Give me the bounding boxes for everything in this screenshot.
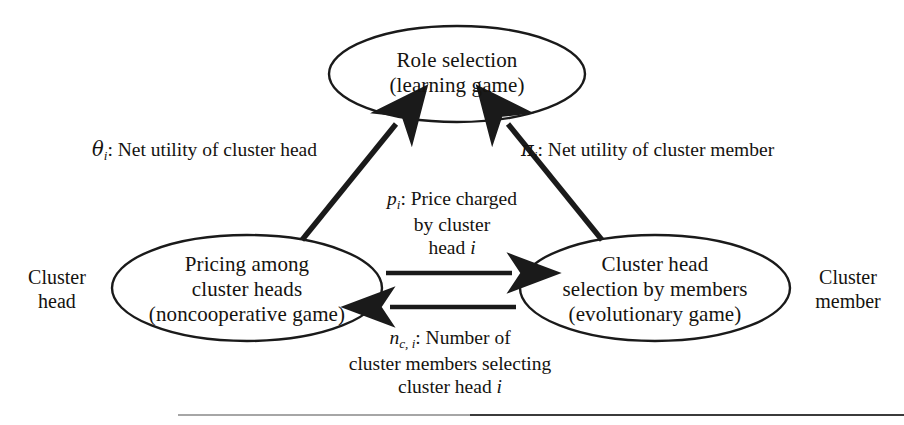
- edge-label-pi-net-utility-cluster-member: πi: Net utility of cluster member: [521, 138, 851, 164]
- members-line-1: nc, i: Number of: [295, 326, 605, 352]
- pi-text: : Net utility of cluster member: [538, 139, 775, 160]
- edge-label-price-charged: pi: Price charged by cluster head i: [337, 187, 567, 259]
- price-symbol: p: [387, 188, 397, 209]
- side-label-cluster-member: Cluster member: [796, 265, 900, 313]
- members-line-3-italic: i: [497, 376, 502, 397]
- members-line-3: cluster head i: [295, 375, 605, 398]
- members-line-1-text: : Number of: [415, 327, 510, 348]
- node-label-pricing-among-cluster-heads: Pricing among cluster heads (noncooperat…: [112, 252, 382, 326]
- side-label-cluster-head: Cluster head: [8, 265, 106, 313]
- price-line-2: by cluster: [337, 213, 567, 236]
- node-label-role-selection: Role selection (learning game): [330, 48, 584, 98]
- node-label-cluster-head-selection: Cluster head selection by members (evolu…: [520, 252, 790, 326]
- members-line-2: cluster members selecting: [295, 352, 605, 375]
- price-line-3-italic: i: [470, 237, 475, 258]
- price-line-1: pi: Price charged: [337, 187, 567, 213]
- pi-symbol: π: [521, 138, 534, 161]
- theta-symbol: θ: [92, 138, 104, 161]
- members-subscript: c, i: [399, 336, 415, 351]
- price-line-3-prefix: head: [428, 237, 470, 258]
- edge-label-number-of-cluster-members: nc, i: Number of cluster members selecti…: [295, 326, 605, 398]
- diagram-canvas: Role selection (learning game) Pricing a…: [0, 0, 904, 425]
- price-line-3: head i: [337, 236, 567, 259]
- theta-text: : Net utility of cluster head: [107, 139, 317, 160]
- members-line-3-prefix: cluster head: [398, 376, 497, 397]
- price-line-1-text: : Price charged: [400, 188, 517, 209]
- members-symbol: n: [389, 327, 399, 348]
- edge-label-theta-net-utility-cluster-head: θi: Net utility of cluster head: [92, 138, 392, 164]
